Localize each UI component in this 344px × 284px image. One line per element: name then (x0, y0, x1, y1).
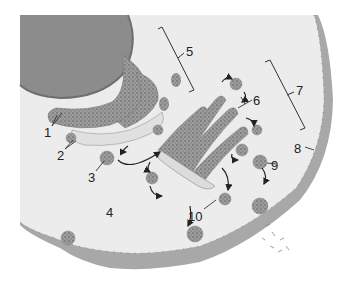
label-8: 8 (294, 142, 301, 155)
label-7: 7 (296, 84, 303, 97)
cell-diagram: 1 2 3 4 5 6 7 8 9 10 (0, 0, 344, 284)
label-3: 3 (88, 171, 95, 184)
label-5: 5 (186, 45, 193, 58)
label-9: 9 (271, 159, 278, 172)
label-4: 4 (106, 206, 113, 219)
label-2: 2 (57, 149, 64, 162)
secretion-particles (262, 224, 289, 252)
label-1: 1 (44, 126, 51, 139)
label-6: 6 (253, 94, 260, 107)
cell-illustration (0, 0, 344, 284)
label-10: 10 (188, 210, 202, 223)
